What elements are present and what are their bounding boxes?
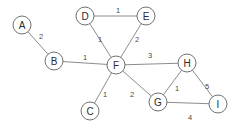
graph-node-i[interactable]: I [209, 95, 227, 113]
graph-node-e[interactable]: E [137, 7, 155, 25]
edge-weight-a-b: 2 [39, 32, 43, 41]
graph-edge-f-h [125, 63, 178, 65]
graph-edge-c-f [94, 73, 111, 103]
node-label-d: D [81, 11, 88, 22]
edge-weight-d-e: 1 [116, 6, 120, 15]
node-label-a: A [19, 20, 26, 31]
edge-weight-f-g: 2 [130, 90, 134, 99]
node-label-e: E [143, 11, 150, 22]
node-label-f: F [113, 60, 119, 71]
edge-weight-d-f: 1 [98, 35, 102, 44]
graph-svg-root: 21112312154 ABCDEFGHI [0, 0, 240, 125]
graph-node-g[interactable]: G [149, 93, 167, 111]
graph-edge-b-f [63, 62, 107, 65]
edge-weight-b-f: 1 [83, 53, 87, 62]
graph-node-c[interactable]: C [81, 102, 99, 120]
graph-node-a[interactable]: A [13, 16, 31, 34]
node-label-g: G [154, 97, 162, 108]
node-label-c: C [86, 106, 93, 117]
node-label-h: H [183, 58, 190, 69]
edge-weight-f-h: 3 [148, 51, 152, 60]
graph-node-f[interactable]: F [107, 56, 125, 74]
edge-weight-c-f: 1 [103, 90, 107, 99]
node-label-i: I [217, 99, 220, 110]
edge-weight-e-f: 2 [135, 35, 139, 44]
graph-node-b[interactable]: B [45, 52, 63, 70]
node-label-b: B [51, 56, 58, 67]
graph-node-d[interactable]: D [76, 7, 94, 25]
edge-weight-g-i: 4 [188, 113, 192, 122]
edge-weight-g-h: 1 [175, 84, 179, 93]
graph-edge-f-g [123, 71, 152, 96]
graph-node-h[interactable]: H [178, 54, 196, 72]
graph-edge-g-i [167, 102, 209, 103]
graph-edge-h-i [192, 70, 212, 97]
graph-diagram: 21112312154 ABCDEFGHI [0, 0, 240, 125]
edge-weight-h-i: 5 [205, 82, 209, 91]
